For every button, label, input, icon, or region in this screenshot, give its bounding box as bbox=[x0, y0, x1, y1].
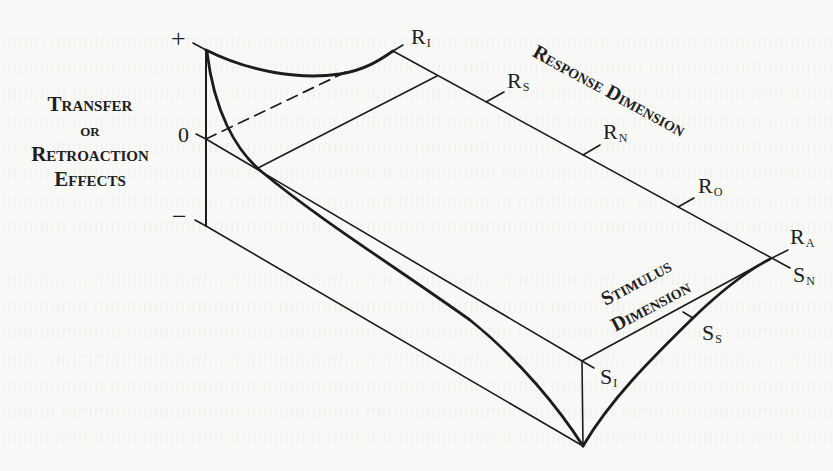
zero-sign: 0 bbox=[178, 122, 189, 148]
minus-baseline bbox=[206, 226, 583, 446]
side-label-line-4: Effects bbox=[20, 167, 160, 192]
transfer-effects-label: Transfer or Retroaction Effects bbox=[20, 92, 160, 192]
dashed-zero-line bbox=[206, 72, 346, 139]
side-label-line-2: or bbox=[20, 117, 160, 142]
transfer-surface-diagram bbox=[0, 0, 833, 471]
ss-tick bbox=[683, 312, 693, 318]
tick-label-si: SI bbox=[600, 364, 617, 391]
top-gradient-curve bbox=[206, 50, 393, 76]
tick-label-ro: RO bbox=[698, 173, 722, 200]
minus-sign: − bbox=[172, 202, 187, 232]
tick-label-ra: RA bbox=[790, 224, 814, 251]
rs-tick bbox=[486, 92, 504, 102]
plus-sign: + bbox=[171, 24, 186, 54]
side-label-line-3: Retroaction bbox=[20, 142, 160, 167]
si-tick bbox=[582, 361, 594, 368]
stimulus-axis-line bbox=[582, 259, 770, 361]
ri-tick bbox=[393, 45, 403, 51]
zero-tick bbox=[196, 134, 206, 139]
tick-label-ss: SS bbox=[702, 320, 722, 347]
side-label-line-1: Transfer bbox=[20, 92, 160, 117]
ro-tick bbox=[678, 198, 694, 207]
minus-tick bbox=[195, 220, 206, 226]
tick-label-sn: SN bbox=[793, 262, 815, 289]
plus-tick bbox=[193, 43, 206, 50]
rn-tick bbox=[583, 145, 600, 155]
inner-plane-line bbox=[258, 76, 437, 168]
stimulus-corner-vertical bbox=[582, 361, 583, 446]
tick-label-rn: RN bbox=[603, 119, 627, 146]
tick-label-rs: RS bbox=[507, 68, 529, 95]
tick-label-ri: RI bbox=[411, 24, 431, 51]
ra-tick bbox=[770, 250, 788, 259]
